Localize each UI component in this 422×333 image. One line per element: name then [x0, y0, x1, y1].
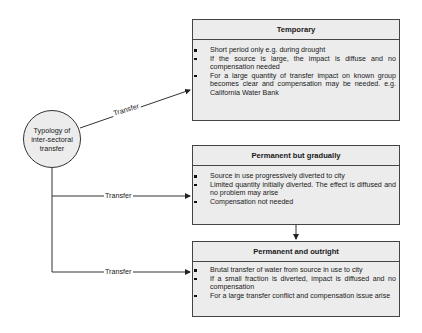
box-title: Temporary [193, 20, 399, 40]
box-title: Permanent and outright [193, 242, 399, 262]
bullet-list: Short period only e.g. during drought If… [193, 40, 399, 98]
bullet-list: Source in use progressively diverted to … [193, 166, 399, 206]
box-permanent-outright: Permanent and outright Brutal transfer o… [192, 241, 400, 317]
bullet-item: Compensation not needed [210, 198, 396, 207]
edge-label-transfer-gradual: Transfer [104, 192, 133, 200]
bullet-item: If a small fraction is diverted, impact … [210, 275, 396, 292]
edge-label-transfer-outright: Transfer [104, 268, 133, 276]
bullet-list: Brutal transfer of water from source in … [193, 262, 399, 300]
box-permanent-gradual: Permanent but gradually Source in use pr… [192, 145, 400, 225]
root-label-line: inter-sectoral [31, 135, 73, 144]
bullet-item: Source in use progressively diverted to … [210, 172, 396, 181]
bullet-item: For a large transfer conflict and compen… [210, 292, 396, 301]
root-label-line: transfer [31, 144, 73, 153]
bullet-item: For a large quantity of transfer impact … [210, 72, 396, 98]
box-temporary: Temporary Short period only e.g. during … [192, 19, 400, 121]
box-title: Permanent but gradually [193, 146, 399, 166]
bullet-item: If the source is large, the impact is di… [210, 55, 396, 72]
bullet-item: Short period only e.g. during drought [210, 46, 396, 55]
root-node-typology: Typology of inter-sectoral transfer [23, 110, 81, 168]
bullet-item: Brutal transfer of water from source in … [210, 266, 396, 275]
bullet-item: Limited quantity initially diverted. The… [210, 181, 396, 198]
root-label-line: Typology of [31, 126, 73, 135]
